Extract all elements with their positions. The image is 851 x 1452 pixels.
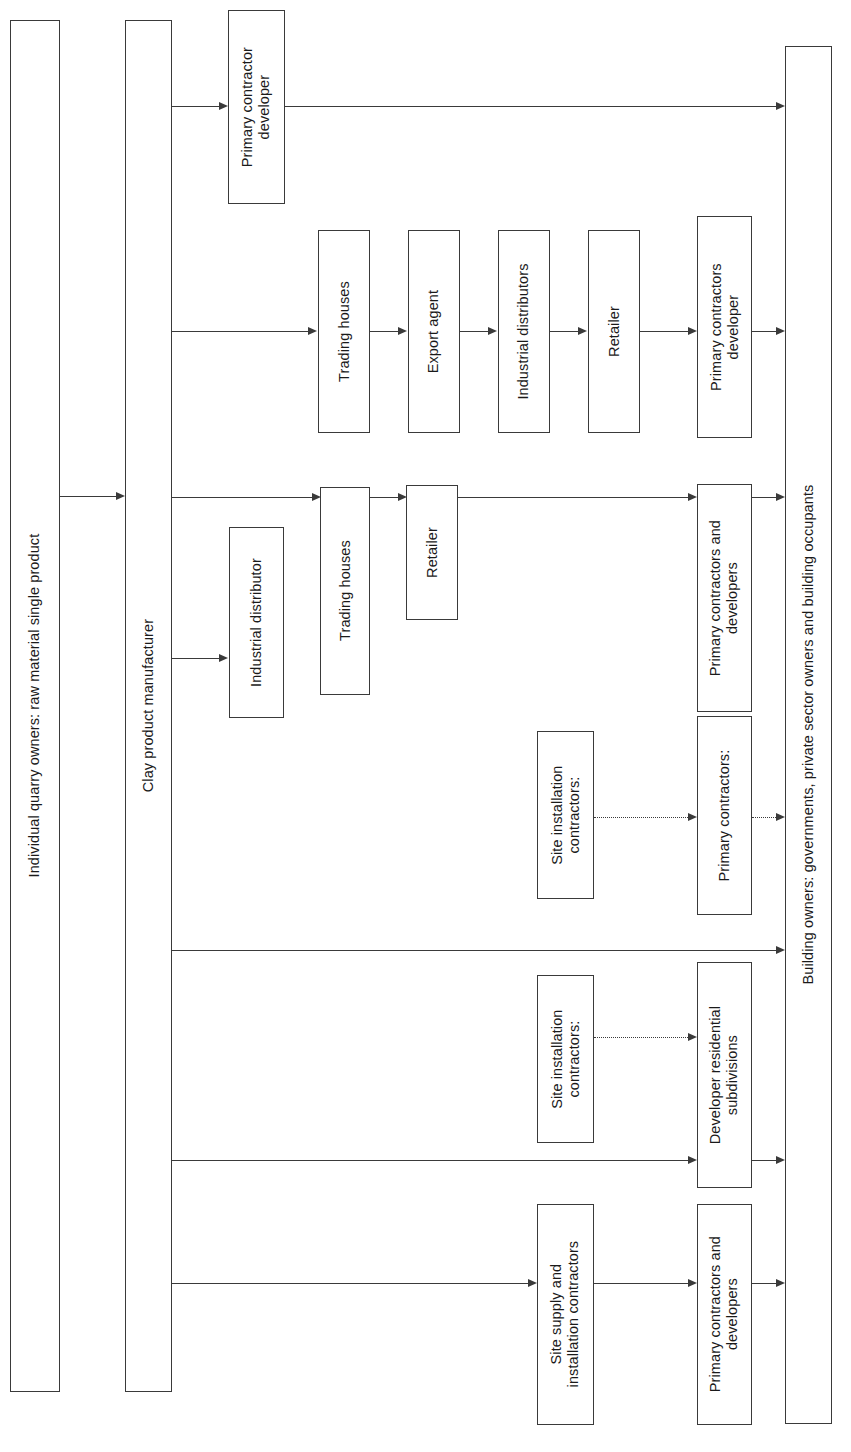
node-primary-contractor-developer: Primary contractor developer: [228, 10, 285, 204]
edge-retailer1-to-pc-arrowhead: [688, 327, 697, 335]
column-label-building-owners: Building owners: governments, private se…: [800, 485, 817, 985]
edge-pcd3-to-owners-arrowhead: [776, 1279, 785, 1287]
node-label-primary-contractors-developers-2: Primary contractors and developers: [707, 1236, 741, 1392]
edge-pcd2-to-building-owners: [752, 497, 776, 498]
node-label-site-supply-installation-contractors: Site supply and installation contractors: [548, 1241, 582, 1388]
node-label-primary-contractors-developer: Primary contractors developer: [707, 263, 741, 391]
node-label-trading-houses-1: Trading houses: [335, 281, 352, 382]
edge-pcd-to-owners-arrowhead: [776, 102, 785, 110]
edge-pc-developer-to-building-owners: [752, 331, 776, 332]
node-label-primary-contractor-developer: Primary contractor developer: [239, 47, 273, 167]
node-primary-contractors-and-developers-1: Primary contractors and developers: [697, 484, 752, 712]
edge-manufacturer-to-building-owners-direct: [172, 950, 776, 951]
edge-th2-to-retailer-2: [370, 497, 398, 498]
edge-th1-to-export-agent: [370, 331, 398, 332]
edge-th1-to-export-arrowhead: [398, 327, 407, 335]
node-trading-houses-2: Trading houses: [320, 487, 370, 695]
node-label-developer-residential-subdivisions: Developer residential subdivisions: [707, 1006, 741, 1144]
node-label-trading-houses-2: Trading houses: [336, 541, 353, 642]
node-retailer-1: Retailer: [588, 230, 640, 433]
node-export-agent: Export agent: [408, 230, 460, 433]
node-trading-houses-1: Trading houses: [318, 230, 370, 433]
node-site-installation-contractors-2: Site installation contractors:: [537, 975, 594, 1143]
column-label-manufacturer: Clay product manufacturer: [140, 619, 157, 792]
node-primary-contractors-and-developers-2: Primary contractors and developers: [697, 1204, 752, 1425]
edge-pcd-to-building-owners: [285, 106, 776, 107]
edge-manufacturer-to-site-supply: [172, 1283, 528, 1284]
edge-pcd3-to-building-owners: [752, 1283, 776, 1284]
edge-manufacturer-to-inddist-arrowhead: [219, 654, 228, 662]
node-industrial-distributors: Industrial distributors: [498, 230, 550, 433]
node-site-supply-and-installation-contractors: Site supply and installation contractors: [537, 1204, 594, 1425]
edge-quarry-to-niche-arrowhead: [116, 492, 125, 500]
edge-pc-to-owners-arrowhead: [776, 813, 785, 821]
edge-manufacturer-to-primary-contractor-developer: [172, 106, 219, 107]
column-individual-quarry-owners: Individual quarry owners: raw material s…: [10, 20, 60, 1392]
edge-developer-residential-to-building-owners: [752, 1160, 776, 1161]
edge-export-to-inddist-arrowhead: [488, 327, 497, 335]
edge-manufacturer-to-th1-arrowhead: [308, 327, 317, 335]
edge-manufacturer-to-drs-arrowhead: [688, 1156, 697, 1164]
node-label-primary-contractors-developers-1: Primary contractors and developers: [707, 520, 741, 676]
edge-manufacturer-to-trading-houses-1: [172, 331, 308, 332]
edge-industrial-distributors-to-retailer-1: [550, 331, 578, 332]
edge-primary-contractors-to-building-owners: [752, 817, 776, 818]
edge-site-install-2-to-developer-residential: [594, 1037, 688, 1038]
edge-retailer2-to-pcd2-arrowhead: [688, 493, 697, 501]
node-industrial-distributor: Industrial distributor: [229, 527, 284, 718]
edge-pcdev-to-owners-arrowhead: [776, 327, 785, 335]
column-building-owners: Building owners: governments, private se…: [785, 46, 832, 1424]
node-label-export-agent: Export agent: [425, 290, 442, 373]
node-label-industrial-distributors: Industrial distributors: [515, 263, 532, 399]
edge-inddist-to-retailer-arrowhead: [578, 327, 587, 335]
edge-manufacturer-to-owners-arrowhead: [776, 946, 785, 954]
edge-manufacturer-to-sitesupply-arrowhead: [528, 1279, 537, 1287]
node-developer-residential-subdivisions: Developer residential subdivisions: [697, 962, 752, 1188]
edge-retailer-2-to-primary-contractors-developers: [458, 497, 688, 498]
edge-export-agent-to-industrial-distributors: [460, 331, 488, 332]
node-retailer-2: Retailer: [406, 485, 458, 620]
edge-manufacturer-to-pcd-arrowhead: [219, 102, 228, 110]
edge-drs-to-owners-arrowhead: [776, 1156, 785, 1164]
edge-pcd2-to-owners-arrowhead: [776, 493, 785, 501]
edge-quarry-to-niche: [60, 496, 116, 497]
node-label-primary-contractors: Primary contractors:: [716, 750, 733, 882]
edge-site-supply-to-primary-contractors-developers-2: [594, 1283, 688, 1284]
supply-chain-diagram: Individual quarry owners: raw material s…: [0, 0, 851, 1452]
node-label-site-installation-contractors-1: Site installation contractors:: [548, 765, 582, 864]
column-label-quarry: Individual quarry owners: raw material s…: [26, 534, 43, 878]
edge-site-install-1-to-primary-contractors: [594, 817, 688, 818]
node-label-retailer-2: Retailer: [423, 527, 440, 578]
node-primary-contractors: Primary contractors:: [697, 716, 752, 915]
column-clay-product-manufacturer-body: Clay product manufacturer: [125, 20, 172, 1392]
edge-retailer-1-to-primary-contractors-developer: [640, 331, 688, 332]
node-label-retailer-1: Retailer: [605, 306, 622, 357]
node-primary-contractors-developer: Primary contractors developer: [697, 216, 752, 438]
edge-si1-to-pc-arrowhead: [688, 813, 697, 821]
edge-manufacturer-to-developer-residential: [172, 1160, 688, 1161]
edge-manufacturer-to-trading-houses-2: [172, 497, 312, 498]
node-label-industrial-distributor: Industrial distributor: [248, 558, 265, 687]
edge-si2-to-drs-arrowhead: [688, 1033, 697, 1041]
edge-sitesupply-to-pcd3-arrowhead: [688, 1279, 697, 1287]
edge-manufacturer-to-industrial-distributor: [172, 658, 219, 659]
node-label-site-installation-contractors-2: Site installation contractors:: [548, 1009, 582, 1108]
node-site-installation-contractors-1: Site installation contractors:: [537, 731, 594, 899]
